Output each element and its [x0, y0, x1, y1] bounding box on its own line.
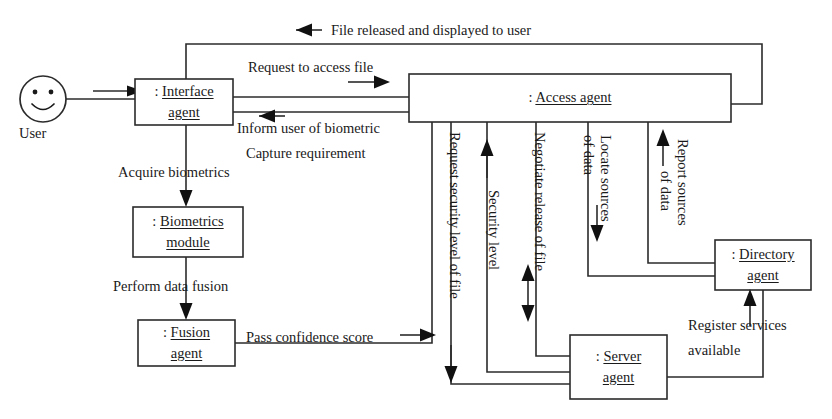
message-label-security-level: Security level [483, 190, 503, 270]
diagram-canvas: User : Interface agent : Access agent : … [0, 0, 832, 419]
node-access-agent-box[interactable] [409, 74, 731, 122]
user-actor-icon [20, 76, 66, 122]
message-label-pass-confidence-score: Pass confidence score [246, 328, 373, 348]
message-label-report-sources-of-data: of data [655, 171, 675, 211]
message-label-acquire-biometrics: Acquire biometrics [118, 163, 230, 183]
user-caption: User [19, 125, 46, 142]
message-label-negotiate-release-of-file: Negotiate release of file [529, 132, 549, 271]
message-label-capture-requirement: Capture requirement [246, 144, 366, 164]
message-label-request-access-file: Request to access file [248, 58, 373, 78]
edge-user-to-interface [66, 86, 143, 100]
message-label-locate-sources-of-data: of data [578, 135, 598, 175]
node-server-agent-box[interactable] [570, 335, 667, 399]
node-interface-agent-box[interactable] [135, 79, 233, 125]
edge-request-access-file [233, 76, 409, 98]
node-biometrics-module-box[interactable] [133, 207, 243, 257]
message-label-perform-data-fusion: Perform data fusion [113, 277, 228, 297]
message-label-locate-sources: Locate sources [595, 135, 615, 222]
node-directory-agent-box[interactable] [715, 240, 811, 290]
message-label-request-security-level: Request security level of file [444, 132, 464, 299]
message-label-file-released: File released and displayed to user [331, 21, 531, 41]
message-label-register-services: Register services [688, 316, 787, 336]
message-label-report-sources: Report sources [672, 139, 692, 226]
message-label-register-available: available [688, 341, 740, 361]
node-fusion-agent-box[interactable] [138, 320, 235, 366]
message-label-inform-user-biometric: Inform user of biometric [237, 119, 380, 139]
